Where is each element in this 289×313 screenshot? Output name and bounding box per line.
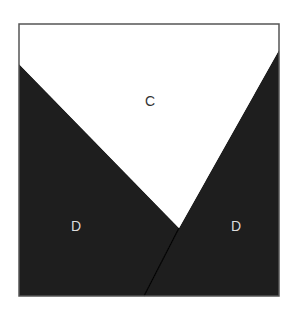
label-d-left: D	[71, 218, 81, 234]
region-diagram: C D D	[0, 0, 289, 313]
label-c: C	[145, 93, 155, 109]
label-d-right: D	[231, 218, 241, 234]
